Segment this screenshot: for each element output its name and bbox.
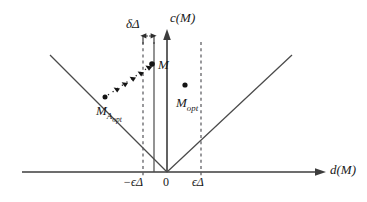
delta-delta-label: δΔ: [126, 17, 140, 30]
y-axis-label: c(M): [170, 11, 195, 24]
point-M: [149, 61, 155, 67]
delta-delta-measure-arrows: [140, 33, 156, 44]
label-point-M: M: [158, 58, 169, 71]
label-point-M-opt: Mopt: [176, 96, 198, 112]
x-axis: [22, 168, 326, 176]
label-M-A-opt-base: M: [96, 103, 107, 118]
v-curve-right-arm: [167, 55, 292, 172]
tick-label-neg-epsilon-delta: −ϵΔ: [123, 176, 143, 188]
dashed-arrow-Maopt-to-M: [108, 66, 152, 95]
label-M-opt-sub: opt: [187, 103, 198, 113]
y-axis: [163, 29, 171, 172]
point-M-A-opt: [103, 95, 108, 100]
point-M-opt: [182, 82, 187, 87]
x-axis-arrowhead: [315, 168, 326, 176]
x-axis-label: d(M): [330, 163, 356, 176]
cost-function-v-curve: [50, 55, 292, 172]
label-M-opt-base: M: [176, 95, 187, 110]
tick-label-origin: 0: [163, 176, 169, 188]
tick-label-epsilon-delta: ϵΔ: [192, 176, 204, 188]
label-M-A-opt-subsub: opt: [112, 114, 122, 123]
cost-distance-diagram: c(M) d(M) δΔ M MAopt Mopt −ϵΔ 0 ϵΔ: [0, 0, 367, 202]
arrow-chevron-3: [130, 77, 136, 82]
arrow-chevron-1: [114, 88, 120, 93]
label-point-M-A-opt: MAopt: [96, 104, 122, 123]
y-axis-arrowhead: [163, 29, 171, 40]
